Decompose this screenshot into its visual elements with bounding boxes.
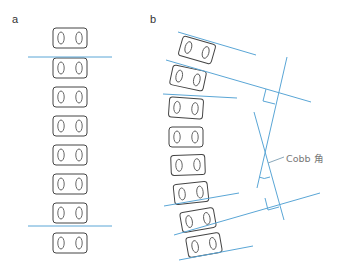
vertebra [53,233,87,253]
vertebra [186,232,223,258]
vertebra [53,58,87,78]
vertebra [178,36,216,65]
vertebra [53,116,87,136]
vertebra [53,145,87,165]
vertebra [169,65,206,92]
vertebra [53,28,87,48]
cobb-angle-label: Cobb 角 [286,151,324,165]
vertebra [53,87,87,107]
vertebra [169,127,203,147]
right-angle-marker-lower [265,198,279,210]
cobb-leader-line [268,157,284,163]
upper-perpendicular [257,57,287,188]
panel-a-spine [53,28,87,253]
vertebra [168,97,203,119]
lower-perpendicular [254,112,284,220]
vertebra [53,203,87,223]
cobb-angle-arc [259,177,270,179]
vertebra [180,207,217,233]
vertebra [171,154,206,175]
spine-diagram [0,0,344,270]
vertebra [53,174,87,194]
